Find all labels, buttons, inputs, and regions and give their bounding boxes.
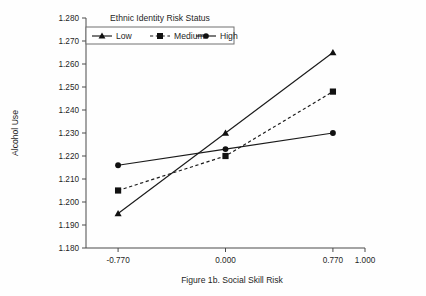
y-tick-label: 1.250 xyxy=(59,83,80,92)
y-axis-title: Alcohol Use xyxy=(10,110,20,156)
data-point-high-2 xyxy=(330,130,336,136)
y-tick-label: 1.270 xyxy=(59,37,80,46)
legend-circle-marker xyxy=(203,33,209,39)
y-tick-label: 1.210 xyxy=(59,175,80,184)
x-axis-title: Figure 1b. Social Skill Risk xyxy=(181,275,283,285)
data-point-low-1 xyxy=(222,129,229,135)
x-axis-ticks: -0.7700.0000.7701.000 xyxy=(106,248,375,265)
y-tick-label: 1.180 xyxy=(59,244,80,253)
data-point-low-0 xyxy=(115,210,122,216)
data-point-medium-1 xyxy=(222,153,228,159)
data-point-low-2 xyxy=(329,49,336,55)
series-layer xyxy=(115,49,337,216)
y-tick-label: 1.230 xyxy=(59,129,80,138)
y-tick-label: 1.240 xyxy=(59,106,80,115)
series-low xyxy=(115,49,337,216)
legend: Ethnic Identity Risk Status LowMediumHig… xyxy=(86,13,238,44)
y-axis-ticks: 1.1801.1901.2001.2101.2201.2301.2401.250… xyxy=(59,14,87,253)
legend-title: Ethnic Identity Risk Status xyxy=(110,13,210,23)
series-high xyxy=(115,130,336,168)
data-point-medium-2 xyxy=(330,89,336,95)
data-point-high-0 xyxy=(115,162,121,168)
legend-label-high: High xyxy=(220,31,238,41)
x-tick-label: -0.770 xyxy=(106,256,130,265)
y-tick-label: 1.220 xyxy=(59,152,80,161)
legend-label-low: Low xyxy=(116,31,133,41)
legend-square-marker xyxy=(157,33,163,39)
series-line-medium xyxy=(118,92,333,191)
x-tick-label: 0.770 xyxy=(323,256,344,265)
x-tick-label: 0.000 xyxy=(215,256,236,265)
series-medium xyxy=(115,89,336,194)
x-tick-label: 1.000 xyxy=(355,256,376,265)
y-tick-label: 1.200 xyxy=(59,198,80,207)
y-tick-label: 1.280 xyxy=(59,14,80,23)
data-point-medium-0 xyxy=(115,187,121,193)
figure-container: 1.1801.1901.2001.2101.2201.2301.2401.250… xyxy=(0,0,426,296)
data-point-high-1 xyxy=(223,146,229,152)
line-chart: 1.1801.1901.2001.2101.2201.2301.2401.250… xyxy=(0,0,426,296)
y-tick-label: 1.190 xyxy=(59,221,80,230)
y-tick-label: 1.260 xyxy=(59,60,80,69)
